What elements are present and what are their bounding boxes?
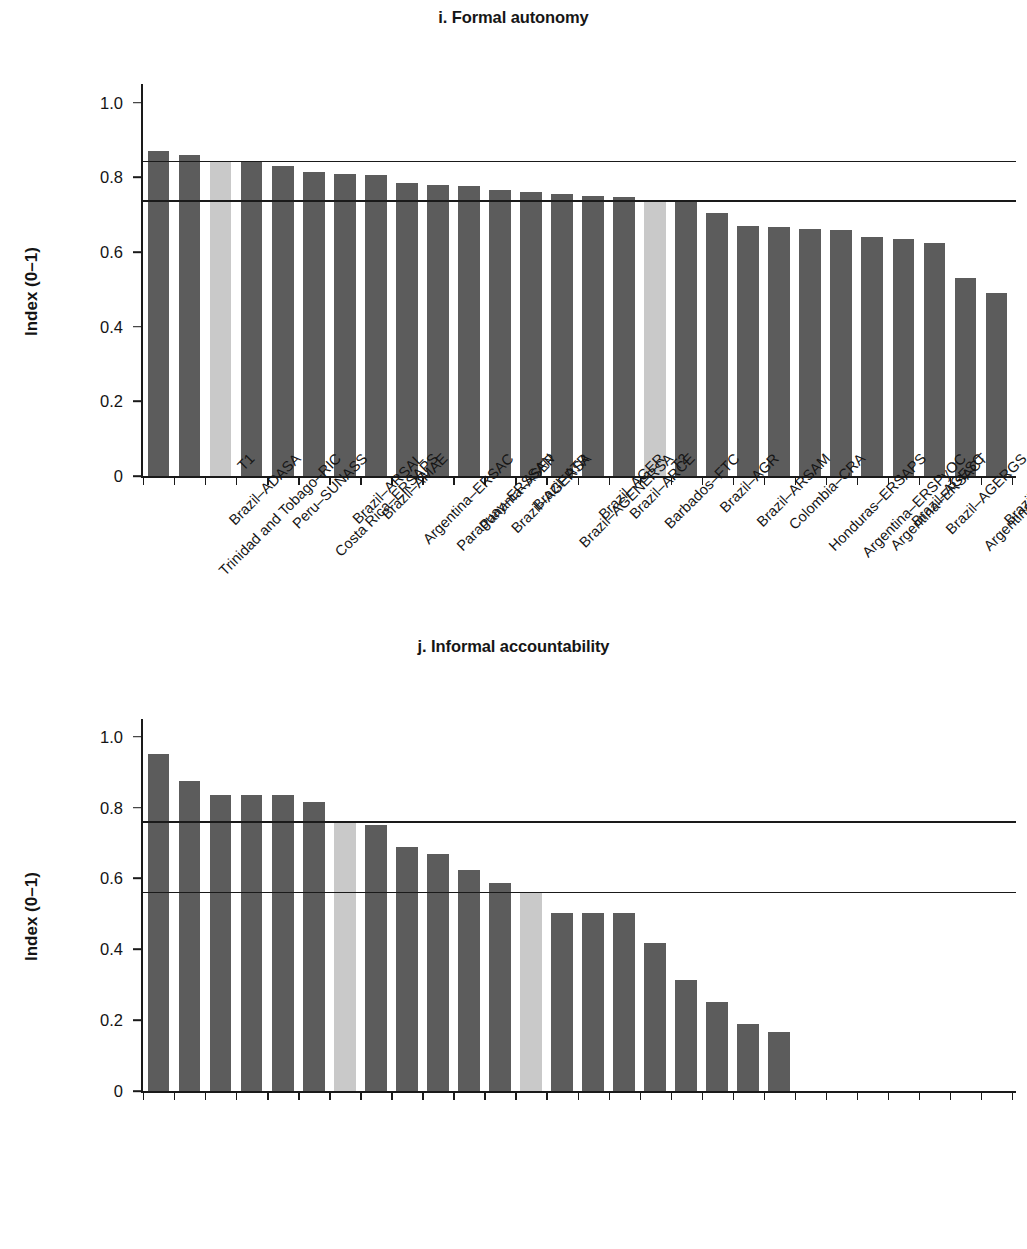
axes-i: 00.20.40.60.81.0: [0, 36, 1027, 436]
x-tick-mark: [453, 477, 454, 485]
x-tick-mark: [205, 1092, 206, 1100]
y-tick-mark: [133, 251, 141, 253]
x-tick-mark: [329, 1092, 330, 1100]
x-tick-mark: [174, 1092, 175, 1100]
bar: [737, 1024, 759, 1091]
y-tick-label: 1.0: [77, 727, 123, 746]
bar: [613, 197, 635, 476]
x-tick-mark: [578, 1092, 579, 1100]
x-tick-mark: [298, 1092, 299, 1100]
y-tick-mark: [133, 948, 141, 950]
y-tick-mark: [133, 1019, 141, 1021]
x-tick-mark: [826, 1092, 827, 1100]
bar: [396, 847, 418, 1091]
y-axis-line: [141, 719, 143, 1093]
bar: [241, 162, 263, 476]
panel-title-i: i. Formal autonomy: [0, 6, 1027, 28]
bar: [893, 239, 915, 476]
bar: [427, 854, 449, 1091]
x-tick-mark: [733, 1092, 734, 1100]
bar: [644, 200, 666, 476]
x-tick-mark: [484, 1092, 485, 1100]
x-tick-mark: [267, 1092, 268, 1100]
x-tick-mark: [422, 1092, 423, 1100]
bar: [489, 883, 511, 1091]
y-tick-label: 0.6: [77, 243, 123, 262]
reference-line: [141, 892, 1016, 894]
y-tick-mark: [133, 1090, 141, 1092]
bar: [955, 278, 977, 476]
bar: [148, 754, 170, 1091]
bar: [365, 825, 387, 1091]
x-tick-mark: [174, 477, 175, 485]
x-tick-mark: [515, 1092, 516, 1100]
y-tick-label: 0.2: [77, 1011, 123, 1030]
y-tick-label: 0: [77, 1082, 123, 1101]
bar: [799, 229, 821, 476]
bar: [551, 913, 573, 1091]
bar: [458, 870, 480, 1091]
y-tick-mark: [133, 807, 141, 809]
axes-j: 00.20.40.60.81.0: [0, 671, 1027, 1049]
x-tick-mark: [733, 477, 734, 485]
x-tick-mark: [236, 1092, 237, 1100]
y-tick-mark: [133, 475, 141, 477]
bar: [768, 1032, 790, 1091]
bar: [706, 1002, 728, 1091]
bar: [272, 795, 294, 1091]
bar: [210, 795, 232, 1091]
x-tick-mark: [795, 1092, 796, 1100]
y-axis-line: [141, 84, 143, 478]
bar: [830, 230, 852, 476]
y-tick-label: 0.2: [77, 392, 123, 411]
bar: [582, 913, 604, 1091]
x-tick-mark: [546, 1092, 547, 1100]
x-tick-mark: [609, 477, 610, 485]
bar: [613, 913, 635, 1091]
bar: [272, 166, 294, 476]
x-tick-mark: [391, 1092, 392, 1100]
x-tick-mark: [702, 1092, 703, 1100]
panel-title-j: j. Informal accountability: [0, 635, 1027, 657]
y-tick-mark: [133, 878, 141, 880]
bar: [675, 201, 697, 476]
x-tick-mark: [609, 1092, 610, 1100]
x-tick-mark: [578, 477, 579, 485]
x-tick-mark: [950, 1092, 951, 1100]
bar: [334, 174, 356, 476]
reference-line: [141, 161, 1016, 163]
x-tick-mark: [981, 1092, 982, 1100]
x-tick-mark: [360, 1092, 361, 1100]
y-tick-mark: [133, 736, 141, 738]
y-tick-mark: [133, 102, 141, 104]
bar: [986, 293, 1008, 476]
chart-panel-formal-autonomy: i. Formal autonomy Index (0–1) 00.20.40.…: [0, 0, 1027, 620]
bar: [241, 795, 263, 1091]
x-tick-mark: [857, 1092, 858, 1100]
x-tick-mark: [360, 477, 361, 485]
y-tick-label: 0.4: [77, 940, 123, 959]
x-tick-mark: [671, 1092, 672, 1100]
bar: [365, 175, 387, 476]
bar: [489, 190, 511, 476]
y-tick-mark: [133, 177, 141, 179]
y-tick-label: 0: [77, 467, 123, 486]
x-tick-mark: [640, 1092, 641, 1100]
y-tick-label: 1.0: [77, 93, 123, 112]
y-tick-label: 0.8: [77, 798, 123, 817]
reference-line: [141, 821, 1016, 823]
bar: [582, 196, 604, 476]
x-tick-mark: [919, 1092, 920, 1100]
x-tick-mark: [143, 477, 144, 485]
bar: [179, 155, 201, 476]
bar: [303, 802, 325, 1091]
y-tick-mark: [133, 401, 141, 403]
bar: [551, 194, 573, 476]
x-tick-mark: [453, 1092, 454, 1100]
y-tick-mark: [133, 326, 141, 328]
chart-panel-informal-accountability: j. Informal accountability Index (0–1) 0…: [0, 620, 1027, 1249]
x-tick-mark: [981, 477, 982, 485]
x-tick-mark: [236, 477, 237, 485]
bar: [706, 213, 728, 476]
y-tick-label: 0.4: [77, 317, 123, 336]
